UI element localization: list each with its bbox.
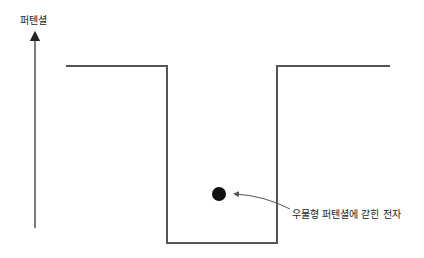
electron-annotation-label: 우물형 퍼텐셜에 갇힌 전자 bbox=[292, 206, 401, 221]
electron-particle bbox=[212, 187, 226, 201]
axis-label: 퍼텐셜 bbox=[20, 12, 47, 27]
annotation-pointer-arrow bbox=[236, 194, 290, 209]
